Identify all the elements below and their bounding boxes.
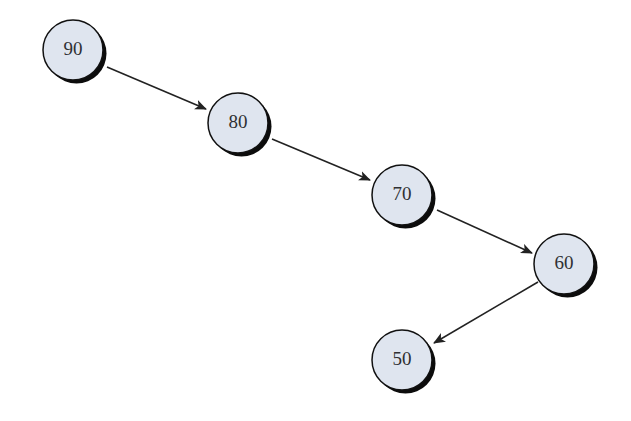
node-label: 60 [555, 252, 574, 273]
tree-node-60: 60 [534, 234, 598, 298]
node-label: 50 [393, 348, 412, 369]
edge-90-to-80 [107, 67, 206, 109]
tree-node-90: 90 [43, 20, 107, 84]
nodes-layer: 9080706050 [43, 20, 598, 394]
node-label: 80 [229, 111, 248, 132]
edges-layer [107, 67, 538, 343]
tree-diagram: 9080706050 [0, 0, 631, 421]
node-label: 90 [64, 38, 83, 59]
node-label: 70 [393, 183, 412, 204]
edge-60-to-50 [434, 282, 538, 343]
tree-node-70: 70 [372, 165, 436, 229]
tree-node-50: 50 [372, 330, 436, 394]
edge-80-to-70 [272, 139, 370, 180]
edge-70-to-60 [437, 210, 532, 253]
tree-node-80: 80 [208, 93, 272, 157]
